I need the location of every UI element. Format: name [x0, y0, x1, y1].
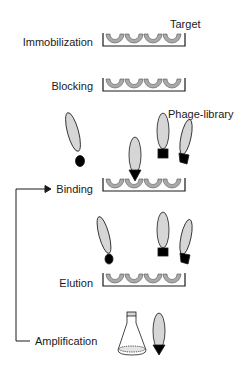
diagram-canvas [0, 0, 245, 372]
phage-library-group [63, 111, 195, 181]
cycle-loop-arrow-icon [16, 186, 51, 342]
plate-elution-icon [103, 273, 185, 286]
eluted-phage-square-tip-icon [157, 212, 169, 256]
plate-binding-icon [103, 178, 185, 191]
phage-square-tip-icon [157, 113, 169, 158]
eluted-phages-group [94, 212, 194, 264]
phage-triangle-tip-icon [129, 137, 141, 181]
eluted-phage-trapezoid-tip-icon [177, 218, 194, 264]
flask-icon [118, 312, 146, 355]
amplified-phage-icon [153, 313, 165, 355]
eluted-phage-round-tip-icon [94, 215, 113, 264]
plate-blocking-icon [103, 78, 185, 91]
phage-trapezoid-tip-icon [177, 118, 194, 164]
plate-immobilization-icon [103, 33, 185, 46]
phage-round-tip-icon [63, 111, 85, 166]
